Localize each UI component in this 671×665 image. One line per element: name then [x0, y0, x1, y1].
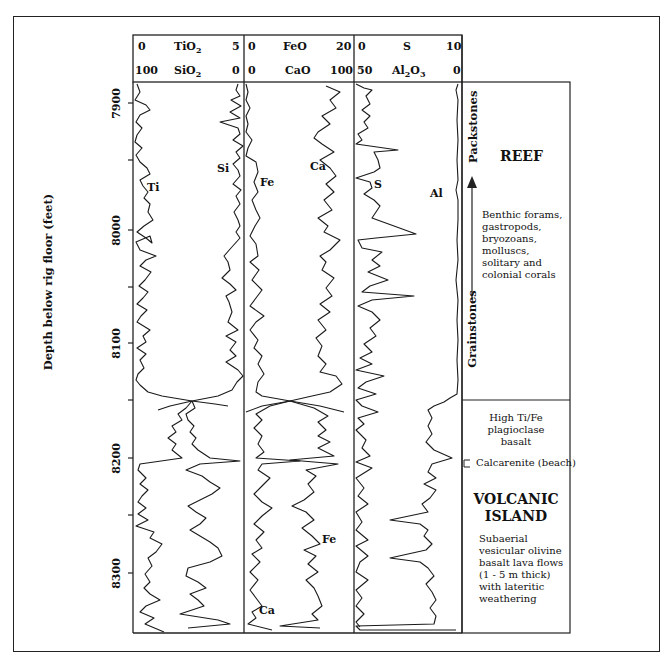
volcanic-note-line: (1 - 5 m thick)	[479, 569, 563, 581]
fe-label-bottom: Fe	[322, 533, 336, 546]
al-curve	[356, 84, 458, 630]
sio2-label: SiO	[174, 64, 196, 77]
ti-label: Ti	[147, 181, 159, 194]
t3-bot-name: Al2O3	[392, 64, 425, 79]
tio2-subscript: 2	[196, 45, 202, 55]
calcarenite-label: Calcarenite (beach)	[476, 457, 576, 469]
fe-curve	[246, 84, 344, 412]
basalt-note-line: High Ti/Fe	[462, 412, 570, 424]
fe-label-top: Fe	[260, 176, 274, 189]
t1-top-min: 0	[138, 40, 146, 53]
t3-top-name: S	[403, 40, 411, 53]
y-tick-8000: 8000	[110, 215, 123, 246]
reef-notes: Benthic forams, gastropods, bryozoans, m…	[482, 209, 562, 281]
island-line: ISLAND	[462, 508, 570, 525]
si-curve-volcanic	[180, 401, 240, 628]
volcanic-note-line: vesicular olivine	[479, 545, 563, 557]
volcanic-notes: Subaerial vesicular olivine basalt lava …	[479, 533, 563, 605]
al-label: Al	[392, 64, 405, 77]
packstones-label: Packstones	[466, 93, 480, 163]
t1-top-max: 5	[232, 40, 240, 53]
y-tick-8300: 8300	[110, 558, 123, 589]
y-tick-7900: 7900	[110, 88, 123, 119]
volcanic-note-line: with lateritic	[479, 581, 563, 593]
t1-bot-min: 100	[135, 64, 158, 77]
reef-note-line: molluscs,	[482, 245, 562, 257]
t1-bot-name: SiO2	[174, 64, 201, 79]
t1-bot-max: 0	[232, 64, 240, 77]
volcanic-note-line: weathering	[479, 593, 563, 605]
y-tick-8100: 8100	[110, 328, 123, 359]
ti-curve-volcanic	[136, 401, 192, 632]
sio2-subscript: 2	[196, 69, 202, 79]
t2-bot-max: 100	[330, 64, 353, 77]
t2-top-max: 20	[336, 40, 351, 53]
t2-bot-name: CaO	[285, 64, 310, 77]
volcanic-line: VOLCANIC	[462, 491, 570, 508]
o-label: O	[410, 64, 420, 77]
basalt-notes: High Ti/Fe plagioclase basalt	[462, 412, 570, 448]
y-axis-label: Depth below rig floor (feet)	[41, 172, 55, 392]
t3-bot-max: 0	[453, 64, 461, 77]
volcanic-note-line: Subaerial	[479, 533, 563, 545]
grainstones-label: Grainstones	[465, 289, 479, 369]
s-label: S	[374, 178, 382, 191]
depth-ticks	[128, 103, 133, 573]
si-label: Si	[217, 162, 229, 175]
basalt-note-line: basalt	[462, 436, 570, 448]
t3-top-min: 0	[358, 40, 366, 53]
reef-note-line: solitary and	[482, 257, 562, 269]
o-subscript: 3	[420, 69, 426, 79]
y-tick-8200: 8200	[110, 443, 123, 474]
reef-note-line: colonial corals	[482, 269, 562, 281]
basalt-note-line: plagioclase	[462, 424, 570, 436]
t3-bot-min: 50	[357, 64, 372, 77]
t2-top-name: FeO	[283, 40, 307, 53]
ca-curve	[246, 86, 342, 412]
reef-note-line: bryozoans,	[482, 233, 562, 245]
volcanic-island-title: VOLCANIC ISLAND	[462, 491, 570, 525]
tio2-label: TiO	[174, 40, 196, 53]
si-curve	[158, 84, 243, 410]
ca-curve-volcanic	[248, 401, 300, 630]
t1-top-name: TiO2	[174, 40, 202, 55]
reef-note-line: Benthic forams,	[482, 209, 562, 221]
t2-top-min: 0	[248, 40, 256, 53]
al-label: Al	[430, 187, 443, 200]
s-curve	[356, 84, 416, 627]
t3-top-max: 10	[446, 40, 461, 53]
reef-title: REEF	[500, 148, 543, 165]
volcanic-note-line: basalt lava flows	[479, 557, 563, 569]
reef-note-line: gastropods,	[482, 221, 562, 233]
ti-curve	[135, 84, 228, 406]
t2-bot-min: 0	[248, 64, 256, 77]
ca-label-top: Ca	[310, 160, 326, 173]
well-log-chart	[0, 0, 671, 665]
fe-curve-volcanic	[280, 401, 338, 628]
ca-label-bottom: Ca	[259, 604, 275, 617]
